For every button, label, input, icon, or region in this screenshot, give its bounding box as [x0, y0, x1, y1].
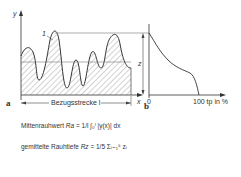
formula-rz-name: gemittelte Rauhtiefe	[21, 143, 79, 150]
reference-length-label: Bezugsstrecke l	[51, 99, 100, 107]
formula-ra-symbol: Ra	[66, 122, 74, 129]
panel-a-label: a	[6, 99, 11, 107]
bearing-ratio-curve	[149, 33, 199, 95]
formula-rz-symbol: Rz	[81, 143, 89, 150]
formula-rz: gemittelte Rauhtiefe Rz = 1/5 Σᵢ₌₁⁵ zᵢ	[21, 143, 127, 151]
formula-rz-expression: = 1/5 Σᵢ₌₁⁵ zᵢ	[90, 143, 126, 150]
z-arrow-top-icon	[142, 33, 145, 38]
bearing-axis-end-label: 100 tp in %	[193, 98, 228, 106]
y-axis-arrow-icon	[19, 10, 23, 16]
y-axis-label: y	[13, 10, 17, 18]
formula-ra-name: Mittenrauhwert	[21, 122, 64, 129]
z-arrow-bottom-icon	[142, 90, 145, 95]
x-axis-arrow-icon	[137, 93, 143, 97]
formula-ra: Mittenrauhwert Ra = 1/l ∫₀ˡ |y(x)| dx	[21, 122, 120, 130]
panel-b-label: b	[144, 102, 149, 110]
formula-ra-expression: = 1/l ∫₀ˡ |y(x)| dx	[76, 122, 120, 129]
x-axis-label: x	[137, 98, 141, 106]
reference-length-arrow-left-icon	[21, 102, 26, 105]
z-dimension-label: z	[138, 60, 142, 68]
bearing-x-arrow-icon	[220, 93, 226, 97]
reference-length-arrow-right-icon	[126, 102, 131, 105]
peak-marker-label: 1	[42, 30, 46, 38]
